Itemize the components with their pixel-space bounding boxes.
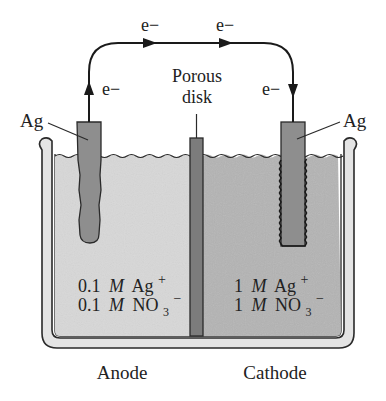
cathode-solution: [203, 155, 341, 337]
anode-no3-subscript: 3: [163, 305, 169, 319]
anode-ag-charge: +: [158, 272, 166, 287]
cathode-no3-charge: −: [316, 291, 324, 306]
cathode-ag-species: Ag: [274, 276, 296, 296]
anode-no3-species: NO: [133, 295, 159, 315]
arrow-up-icon: [84, 81, 94, 95]
cathode-ag-unit: M: [251, 276, 268, 296]
electron-label-top-left: e−: [141, 15, 159, 35]
svg-text:0.1 M Ag +: 0.1 M Ag +: [78, 272, 166, 296]
electron-label-top-right: e−: [216, 15, 234, 35]
cathode-no3-subscript: 3: [306, 305, 312, 319]
anode-label: Anode: [97, 362, 148, 383]
porous-disk-label-line2: disk: [182, 87, 212, 107]
anode-no3-charge: −: [174, 291, 182, 306]
cathode-ag-conc: 1: [234, 276, 243, 296]
anode-no3-conc: 0.1: [78, 295, 101, 315]
cathode-no3-species: NO: [275, 295, 301, 315]
arrow-right-icon: [219, 38, 233, 48]
cathode-ag-charge: +: [301, 272, 309, 287]
electron-label-left: e−: [102, 79, 120, 99]
anode-no3-unit: M: [108, 295, 125, 315]
cathode-label: Cathode: [243, 362, 306, 383]
concentration-cell-diagram: Porous disk Ag Ag e− e− e− e− 0.1 M Ag +: [0, 0, 386, 401]
anode-ag-conc: 0.1: [78, 276, 101, 296]
anode-ag-unit: M: [108, 276, 125, 296]
anode-electrode-label: Ag: [20, 110, 44, 131]
anode-ag-species: Ag: [132, 276, 154, 296]
electron-label-right: e−: [262, 79, 280, 99]
porous-disk-label-line1: Porous: [172, 66, 222, 86]
cathode-no3-conc: 1: [234, 295, 243, 315]
cathode-electrode-label: Ag: [343, 110, 367, 131]
cathode-no3-unit: M: [251, 295, 268, 315]
arrow-right-icon: [143, 38, 157, 48]
arrow-down-icon: [288, 84, 298, 98]
